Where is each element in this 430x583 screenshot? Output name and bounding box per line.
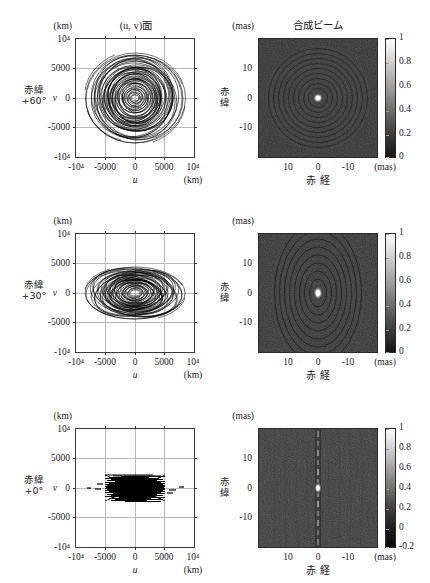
dec-label-line1: 赤緯 bbox=[17, 474, 51, 485]
colorbar-tick: 0.6 bbox=[399, 81, 411, 91]
uv-xlabel: u bbox=[133, 176, 138, 186]
beam-xunit-label: (mas) bbox=[374, 163, 396, 173]
beam-xtick: -10 bbox=[342, 358, 355, 368]
uv-xtick: -5000 bbox=[94, 553, 116, 563]
beam-ylabel-char2: 緯 bbox=[216, 292, 234, 303]
beam-ytick: 0 bbox=[247, 289, 252, 299]
panel-row-dec30: (km) bbox=[0, 195, 430, 390]
uv-ytick: 10⁴ bbox=[57, 425, 70, 435]
beam-image-dec0 bbox=[258, 428, 378, 548]
beam-xtick: -10 bbox=[342, 553, 355, 563]
uv-xtick: 10⁴ bbox=[187, 358, 200, 368]
figure-root: (km) (u, v)面 bbox=[0, 0, 430, 583]
beam-ytick: -10 bbox=[239, 513, 252, 523]
uv-ytick: 10⁴ bbox=[57, 35, 70, 45]
uv-xtick: 5000 bbox=[155, 553, 174, 563]
beam-image-dec30 bbox=[258, 233, 378, 353]
colorbar-tick: 0 bbox=[399, 523, 404, 533]
uv-xtick: 10⁴ bbox=[187, 163, 200, 173]
beam-ylabel-char2: 緯 bbox=[216, 97, 234, 108]
colorbar-tick: 0.6 bbox=[399, 276, 411, 286]
beam-ytick: 10 bbox=[243, 259, 253, 269]
uv-plot-frame bbox=[75, 233, 195, 353]
uv-ylabel: v bbox=[53, 289, 57, 299]
panel-row-dec0: (km) bbox=[0, 390, 430, 583]
uv-xunit-label: (km) bbox=[184, 566, 202, 576]
uv-xunit-label: (km) bbox=[184, 176, 202, 186]
colorbar-tick: 0 bbox=[399, 152, 404, 162]
beam-xtick: -10 bbox=[342, 163, 355, 173]
beam-ytick: 0 bbox=[247, 94, 252, 104]
dec-label-dec60: 赤緯 +60° bbox=[17, 84, 51, 106]
colorbar-tick: 0.2 bbox=[399, 324, 411, 334]
beam-xunit-label: (mas) bbox=[374, 553, 396, 563]
beam-image-dec60 bbox=[258, 38, 378, 158]
colorbar-tick: 1 bbox=[399, 33, 404, 43]
colorbar-dec60 bbox=[385, 38, 396, 158]
uv-ytick: 5000 bbox=[51, 64, 70, 74]
colorbar-tick: 1 bbox=[399, 228, 404, 238]
dec-label-dec0: 赤緯 +0° bbox=[17, 474, 51, 496]
uv-plot-frame bbox=[75, 428, 195, 548]
colorbar-tick: 0.8 bbox=[399, 443, 411, 453]
beam-ylabel-char2: 緯 bbox=[216, 487, 234, 498]
uv-ytick: 5000 bbox=[51, 454, 70, 464]
beam-ylabel: 赤 緯 bbox=[216, 476, 234, 498]
beam-xtick: 10 bbox=[283, 358, 293, 368]
uv-xtick: 10⁴ bbox=[187, 553, 200, 563]
beam-yunit-label: (mas) bbox=[232, 217, 254, 227]
colorbar-tick: 0.4 bbox=[399, 483, 411, 493]
beam-xunit-label: (mas) bbox=[374, 358, 396, 368]
uv-xlabel: u bbox=[133, 566, 138, 576]
beam-xtick: 10 bbox=[283, 553, 293, 563]
colorbar-tick: -0.2 bbox=[399, 542, 414, 552]
uv-tracks-dec60 bbox=[76, 39, 194, 157]
uv-ytick: -5000 bbox=[48, 123, 70, 133]
uv-ytick: 5000 bbox=[51, 259, 70, 269]
beam-yunit-label: (mas) bbox=[232, 412, 254, 422]
colorbar-tick: 0.4 bbox=[399, 105, 411, 115]
dec-label-line2: +0° bbox=[17, 485, 51, 496]
uv-xtick: 0 bbox=[133, 553, 138, 563]
colorbar-dec30 bbox=[385, 233, 396, 353]
uv-tracks-dec0 bbox=[76, 429, 194, 547]
colorbar-tick: 0.2 bbox=[399, 129, 411, 139]
uv-ytick: -5000 bbox=[48, 318, 70, 328]
colorbar-tick: 1 bbox=[399, 423, 404, 433]
uv-xunit-label: (km) bbox=[184, 371, 202, 381]
uv-ytick: 10⁴ bbox=[57, 230, 70, 240]
beam-ylabel: 赤 緯 bbox=[216, 281, 234, 303]
beam-ylabel-char1: 赤 bbox=[216, 86, 234, 97]
dec-label-line1: 赤緯 bbox=[17, 279, 51, 290]
uv-yunit-label: (km) bbox=[54, 22, 72, 32]
uv-title: (u, v)面 bbox=[120, 21, 153, 32]
uv-yunit-label: (km) bbox=[54, 412, 72, 422]
uv-ylabel: v bbox=[53, 484, 57, 494]
uv-xtick: 5000 bbox=[155, 163, 174, 173]
beam-ytick: -10 bbox=[239, 123, 252, 133]
colorbar-tick: 0.2 bbox=[399, 503, 411, 513]
beam-ylabel: 赤 緯 bbox=[216, 86, 234, 108]
beam-xtick: 0 bbox=[316, 553, 321, 563]
beam-xtick: 10 bbox=[283, 163, 293, 173]
uv-xtick: -10⁴ bbox=[68, 553, 84, 563]
beam-ytick: -10 bbox=[239, 318, 252, 328]
colorbar-dec0 bbox=[385, 428, 396, 548]
uv-tracks-dec30 bbox=[76, 234, 194, 352]
uv-ytick: 0 bbox=[65, 484, 70, 494]
beam-ytick: 10 bbox=[243, 454, 253, 464]
uv-xtick: -10⁴ bbox=[68, 163, 84, 173]
dec-label-line2: +30° bbox=[17, 290, 51, 301]
uv-ytick: 0 bbox=[65, 94, 70, 104]
uv-yunit-label: (km) bbox=[54, 217, 72, 227]
uv-xtick: -10⁴ bbox=[68, 358, 84, 368]
beam-title: 合成ビーム bbox=[293, 21, 343, 32]
beam-ytick: 10 bbox=[243, 64, 253, 74]
uv-xtick: -5000 bbox=[94, 163, 116, 173]
beam-ylabel-char1: 赤 bbox=[216, 476, 234, 487]
dec-label-line2: +60° bbox=[17, 95, 51, 106]
colorbar-tick: 0.8 bbox=[399, 57, 411, 67]
uv-ytick: -5000 bbox=[48, 513, 70, 523]
uv-xlabel: u bbox=[133, 371, 138, 381]
uv-ytick: 0 bbox=[65, 289, 70, 299]
